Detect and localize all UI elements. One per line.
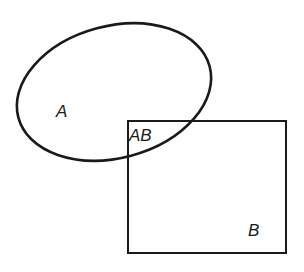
set-b-rectangle xyxy=(128,121,286,253)
set-b-label: B xyxy=(248,221,259,240)
set-a-label: A xyxy=(55,102,67,121)
venn-diagram: A AB B xyxy=(0,0,304,272)
set-a-ellipse xyxy=(1,3,226,182)
intersection-label: AB xyxy=(128,126,152,145)
